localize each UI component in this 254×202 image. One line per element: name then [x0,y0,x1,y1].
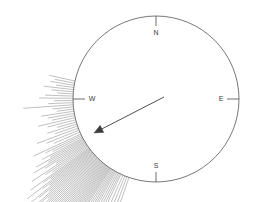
direction-ray [52,107,73,109]
cardinal-label-e: E [219,95,224,102]
direction-ray [57,93,73,94]
compass-circle-outline [73,16,239,182]
direction-ray [50,75,75,81]
direction-ray [52,116,75,121]
arrow-head [94,125,104,133]
direction-ray [57,109,74,111]
direction-ray [57,122,76,128]
cardinal-direction-markers: NESW [73,16,239,182]
direction-ray [34,134,81,156]
direction-ray-bundle [18,75,129,202]
cardinal-label-w: W [89,95,96,102]
direction-ray [56,85,74,88]
direction-ray [48,113,75,118]
direction-ray [47,124,77,133]
direction-ray [41,111,74,116]
direction-ray [48,103,73,104]
cardinal-label-n: N [153,29,158,36]
cardinal-label-s: S [154,162,159,169]
mean-direction-arrow [94,97,164,133]
direction-ray [50,81,74,85]
arrow-shaft [102,97,164,129]
direction-ray [45,95,73,96]
direction-ray [51,90,73,92]
wind-rose-canvas: NESW [0,0,254,202]
wind-rose-figure: NESW [0,0,254,202]
